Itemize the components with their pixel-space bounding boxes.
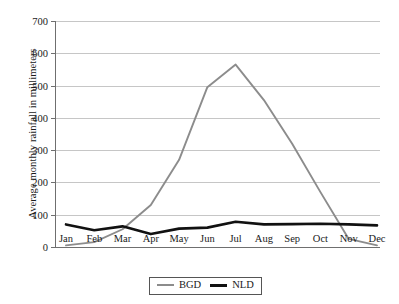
legend-item-nld: NLD [210, 280, 254, 291]
x-tick-label: Apr [143, 233, 159, 244]
x-tick-label: Sep [284, 233, 300, 244]
x-tick-label: Jun [200, 233, 215, 244]
legend-item-bgd: BGD [157, 280, 201, 291]
y-tick-label: 300 [32, 145, 48, 156]
x-tick-label: Nov [340, 233, 358, 244]
x-tick-label: Dec [369, 233, 386, 244]
y-tick-label: 100 [32, 209, 48, 220]
x-tick-label: Oct [313, 233, 328, 244]
x-tick-label: May [169, 233, 188, 244]
y-tick-label: 200 [32, 177, 48, 188]
y-tick-label: 0 [43, 242, 48, 253]
y-tick-label: 700 [32, 16, 48, 27]
x-tick-label: Jul [229, 233, 241, 244]
series-line-nld [66, 222, 377, 234]
legend-label-nld: NLD [232, 280, 254, 291]
rainfall-line-chart: Average monthly rainfall in millimeters … [0, 0, 399, 304]
series-line-bgd [66, 65, 377, 246]
x-tick-label: Feb [86, 233, 102, 244]
x-tick-label: Aug [255, 233, 273, 244]
y-tick-label: 500 [32, 80, 48, 91]
y-tick-label: 400 [32, 112, 48, 123]
black-line-swatch [210, 284, 227, 287]
y-tick-label: 600 [32, 48, 48, 59]
legend-label-bgd: BGD [179, 280, 201, 291]
gray-line-swatch [157, 284, 174, 286]
x-tick-label: Jan [59, 233, 73, 244]
plot-area: 0100200300400500600700 [55, 21, 380, 247]
chart-legend: BGD NLD [149, 277, 262, 295]
x-tick-label: Mar [114, 233, 132, 244]
series-layer [55, 21, 380, 248]
